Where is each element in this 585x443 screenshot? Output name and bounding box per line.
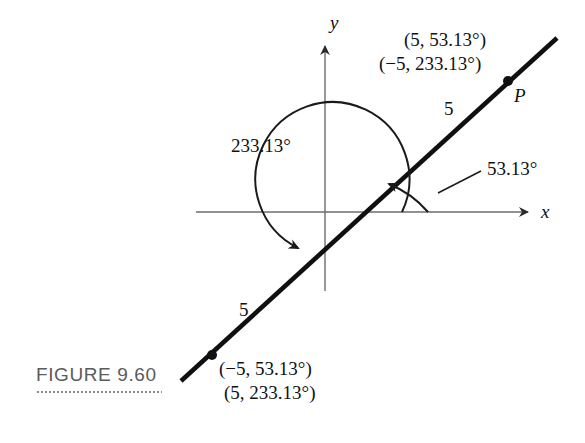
length-label-lower: 5 bbox=[239, 299, 249, 321]
y-axis-label: y bbox=[330, 12, 338, 34]
point-marker-opposite bbox=[207, 350, 217, 360]
figure-container: y x (5, 53.13°) (−5, 233.13°) P (−5, 53.… bbox=[0, 0, 585, 443]
opposite-point-coords-alternate: (5, 233.13°) bbox=[224, 381, 316, 405]
angle-label-large: 233.13° bbox=[231, 135, 291, 157]
figure-caption: FIGURE 9.60 bbox=[36, 364, 162, 393]
figure-caption-text: FIGURE 9.60 bbox=[36, 364, 162, 386]
figure-caption-rule bbox=[36, 389, 162, 393]
point-p-label: P bbox=[514, 85, 526, 107]
angle-label-small: 53.13° bbox=[487, 158, 537, 180]
angle-arc-large bbox=[255, 102, 409, 248]
point-p-coords-alternate: (−5, 233.13°) bbox=[379, 52, 481, 76]
opposite-point-coords-primary: (−5, 53.13°) bbox=[219, 357, 312, 381]
point-p-coords-primary: (5, 53.13°) bbox=[404, 28, 486, 52]
angle-label-leader-line bbox=[438, 171, 481, 193]
length-label-upper: 5 bbox=[444, 98, 454, 120]
x-axis-label: x bbox=[541, 201, 549, 223]
point-marker-p bbox=[503, 76, 513, 86]
terminal-side-line bbox=[181, 38, 557, 381]
